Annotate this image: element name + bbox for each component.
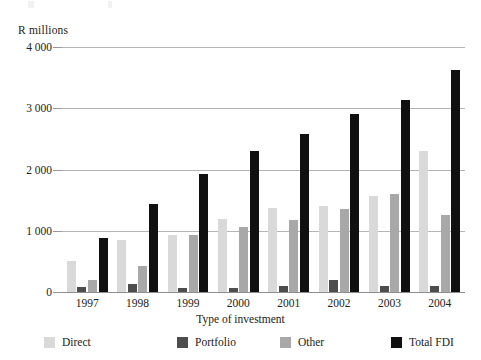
y-axis-tick-label: 3 000 [26,102,52,114]
legend-item-total-fdi[interactable]: Total FDI [391,334,454,350]
x-axis-title: Type of investment [0,313,481,325]
bar-group [117,47,158,292]
bar-group [268,47,309,292]
legend-item-portfolio[interactable]: Portfolio [177,334,236,350]
legend-label: Total FDI [409,336,454,348]
bar-group [218,47,259,292]
bar-portfolio-1998 [128,284,137,292]
bar-total-fdi-1998 [149,204,158,292]
y-axis-tick-mark [53,231,62,232]
bar-group [369,47,410,292]
bar-direct-1999 [168,235,177,292]
x-axis-tick-label: 2004 [428,297,451,309]
bar-other-2002 [340,209,349,292]
x-axis-tick-label: 2002 [328,297,351,309]
bar-direct-2004 [419,151,428,292]
bar-other-2003 [390,194,399,292]
bar-direct-2001 [268,208,277,292]
bar-group [319,47,360,292]
bar-portfolio-2002 [329,280,338,292]
bar-group [67,47,108,292]
bar-other-1997 [88,280,97,292]
bar-direct-2002 [319,206,328,292]
x-axis-line [62,292,465,293]
bar-total-fdi-2000 [250,151,259,292]
bar-direct-2003 [369,196,378,292]
legend-swatch-icon [44,337,55,348]
bar-total-fdi-1997 [99,238,108,292]
chart-legend: DirectPortfolioOtherTotal FDI [44,334,464,354]
bar-direct-1997 [67,261,76,292]
y-axis-tick-label: 1 000 [26,225,52,237]
legend-swatch-icon [391,337,402,348]
bar-other-2001 [289,220,298,292]
bar-direct-2000 [218,219,227,292]
x-axis-tick-label: 2000 [227,297,250,309]
bar-total-fdi-1999 [199,174,208,292]
x-axis-tick-label: 2003 [378,297,401,309]
bar-total-fdi-2004 [451,70,460,292]
y-axis-tick-mark [53,170,62,171]
y-axis-tick-mark [53,292,62,293]
bar-total-fdi-2003 [401,100,410,292]
bar-other-1999 [189,235,198,292]
legend-swatch-icon [177,337,188,348]
legend-label: Portfolio [195,336,236,348]
x-axis-tick-label: 1999 [176,297,199,309]
x-axis-tick-label: 1997 [76,297,99,309]
bar-total-fdi-2001 [300,134,309,292]
bar-other-2004 [441,215,450,292]
y-axis-tick-mark [53,108,62,109]
y-axis-tick-label: 2 000 [26,164,52,176]
x-axis-tick-label: 1998 [126,297,149,309]
bar-other-1998 [138,266,147,292]
plot-area [62,47,465,292]
bar-group [419,47,460,292]
bar-group [168,47,209,292]
bar-total-fdi-2002 [350,114,359,292]
y-axis-tick-label: 0 [46,286,52,298]
y-axis-tick-group: 01 0002 0003 0004 000 [0,47,52,292]
y-axis-tick-label: 4 000 [26,41,52,53]
y-axis-tick-mark [53,47,62,48]
bar-direct-1998 [117,240,126,292]
legend-label: Direct [62,336,91,348]
scan-artifact [24,1,224,8]
legend-item-direct[interactable]: Direct [44,334,91,350]
legend-label: Other [298,336,324,348]
legend-item-other[interactable]: Other [280,334,324,350]
y-axis-unit-label: R millions [18,24,68,36]
x-axis-tick-label: 2001 [277,297,300,309]
chart-figure: R millions 01 0002 0003 0004 000 1997199… [0,0,481,360]
legend-swatch-icon [280,337,291,348]
bar-other-2000 [239,227,248,292]
